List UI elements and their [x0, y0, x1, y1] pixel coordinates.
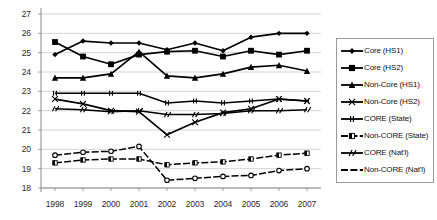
x-axis-tick-2000: 2000	[102, 199, 121, 209]
legend-item-8[interactable]: Non-CORE (Nat'l)	[340, 161, 431, 178]
chart-root: 27262524232221201918 1998199920002001200…	[0, 0, 437, 220]
y-axis-tick-19: 19	[22, 164, 31, 174]
y-axis-tick-24: 24	[22, 67, 31, 77]
x-axis-labels: 1998199920002001200220032004200520062007	[33, 0, 325, 220]
x-axis-tick-2003: 2003	[186, 199, 205, 209]
legend-item-label: Non-Core (HS2)	[364, 97, 420, 106]
legend-item-label: Non-Core (HS1)	[364, 80, 420, 89]
legend-marker-icon	[340, 129, 364, 143]
x-axis-tick-2001: 2001	[130, 199, 149, 209]
legend-item-label: Non-CORE (Nat'l)	[364, 165, 425, 174]
y-axis-tick-22: 22	[22, 106, 31, 116]
y-axis-tick-23: 23	[22, 86, 31, 96]
legend-marker-icon	[340, 78, 364, 92]
x-axis-tick-1998: 1998	[46, 199, 65, 209]
y-axis-tick-26: 26	[22, 28, 31, 38]
legend-item-label: CORE (State)	[364, 114, 412, 123]
legend-item-1[interactable]: Core (HS1)	[340, 42, 431, 59]
x-axis-tick-2005: 2005	[242, 199, 261, 209]
legend-item-2[interactable]: Core (HS2)	[340, 59, 431, 76]
legend-marker-icon	[340, 61, 364, 75]
y-axis-labels: 27262524232221201918	[0, 0, 33, 220]
legend-item-3[interactable]: Non-Core (HS1)	[340, 76, 431, 93]
legend-marker-icon	[340, 112, 364, 126]
legend-item-label: Core (HS1)	[364, 46, 403, 55]
legend-marker-icon	[340, 163, 364, 177]
chart-legend: Core (HS1)Core (HS2)Non-Core (HS1)Non-Co…	[336, 38, 434, 183]
y-axis-tick-20: 20	[22, 144, 31, 154]
legend-item-label: Non-CORE (State)	[364, 131, 428, 140]
plot-area: 27262524232221201918 1998199920002001200…	[0, 0, 332, 220]
legend-item-label: CORE (Nat'l)	[364, 148, 409, 157]
legend-marker-icon	[340, 95, 364, 109]
legend-marker-icon	[340, 146, 364, 160]
x-axis-tick-2006: 2006	[270, 199, 289, 209]
x-axis-tick-2004: 2004	[214, 199, 233, 209]
legend-item-7[interactable]: CORE (Nat'l)	[340, 144, 431, 161]
y-axis-tick-25: 25	[22, 48, 31, 58]
y-axis-tick-18: 18	[22, 183, 31, 193]
legend-item-6[interactable]: Non-CORE (State)	[340, 127, 431, 144]
y-axis-tick-27: 27	[22, 9, 31, 19]
legend-item-label: Core (HS2)	[364, 63, 403, 72]
x-axis-tick-2007: 2007	[298, 199, 317, 209]
legend-item-4[interactable]: Non-Core (HS2)	[340, 93, 431, 110]
y-axis-tick-21: 21	[22, 125, 31, 135]
x-axis-tick-1999: 1999	[74, 199, 93, 209]
x-axis-tick-2002: 2002	[158, 199, 177, 209]
legend-item-5[interactable]: CORE (State)	[340, 110, 431, 127]
legend-marker-icon	[340, 44, 364, 58]
